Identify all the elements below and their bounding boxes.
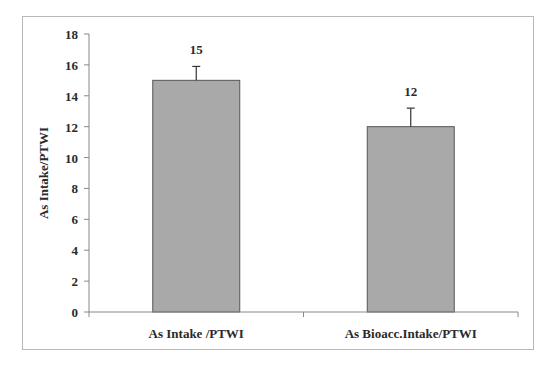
bars: 1512 [153,42,455,312]
x-category-label: As Bioacc.Intake/PTWI [345,326,477,341]
y-tick-label: 6 [72,212,79,227]
y-tick-label: 18 [65,27,79,42]
data-label: 12 [404,84,417,99]
bar [153,80,240,312]
bar-chart: 024681012141618 1512 As Intake /PTWIAs B… [0,0,553,374]
y-tick-label: 16 [65,58,79,73]
y-tick-label: 8 [72,181,79,196]
bar [367,127,454,312]
y-tick-label: 10 [65,151,78,166]
y-tick-label: 14 [65,89,79,104]
y-axis: 024681012141618 [65,27,89,320]
x-category-label: As Intake /PTWI [149,326,244,341]
y-tick-label: 4 [72,243,79,258]
y-tick-label: 2 [72,274,79,289]
y-tick-label: 0 [72,305,79,320]
data-label: 15 [190,42,204,57]
y-axis-title: As Intake/PTWI [36,127,51,219]
x-axis: As Intake /PTWIAs Bioacc.Intake/PTWI [89,312,518,341]
y-tick-label: 12 [65,120,78,135]
